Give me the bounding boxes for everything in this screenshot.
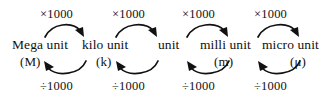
unit-symbol-mega: (M) [20, 55, 41, 68]
unit-symbol-micro: (μ) [290, 55, 306, 68]
multiply-arrow-4 [258, 25, 299, 37]
multiply-label-2: ×1000 [112, 8, 145, 21]
unit-name-base: unit [158, 38, 179, 52]
divide-label-3: ÷1000 [182, 80, 215, 93]
multiply-arrow-1 [45, 25, 84, 37]
multiply-arrow-3 [187, 25, 228, 37]
multiply-arrow-2 [116, 25, 157, 37]
unit-symbol-milli: (m) [214, 55, 233, 68]
multiply-label-3: ×1000 [182, 8, 215, 21]
multiply-label-1: ×1000 [40, 8, 73, 21]
divide-arrow-1 [44, 61, 86, 73]
divide-label-1: ÷1000 [40, 80, 73, 93]
divide-label-4: ÷1000 [254, 80, 287, 93]
unit-name-milli: milli unit [200, 38, 251, 52]
unit-conversion-diagram: ×1000 ×1000 ×1000 ×1000 Mega unit kilo u… [0, 0, 332, 98]
multiply-label-4: ×1000 [254, 8, 287, 21]
unit-name-kilo: kilo unit [82, 38, 128, 52]
unit-name-micro: micro unit [262, 38, 319, 52]
divide-label-2: ÷1000 [112, 80, 145, 93]
unit-name-mega: Mega unit [12, 38, 68, 52]
unit-symbol-kilo: (k) [96, 55, 111, 68]
divide-arrow-2 [116, 61, 158, 73]
